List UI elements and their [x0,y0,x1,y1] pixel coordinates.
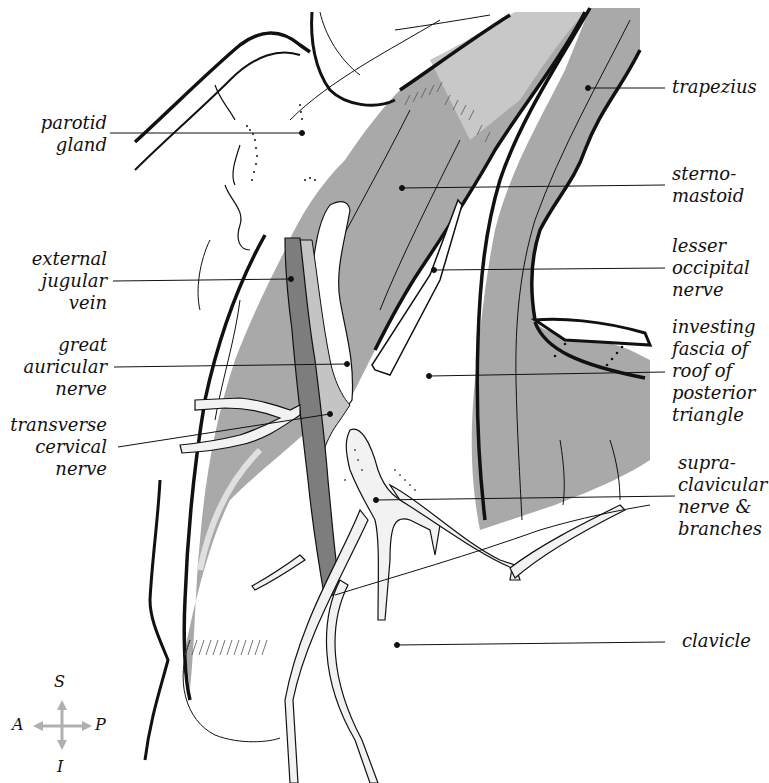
compass-superior: S [54,672,65,691]
label-clavicle: clavicle [682,630,751,652]
label-sternomastoid: sterno- mastoid [672,163,744,207]
anatomy-illustration [0,0,769,783]
orientation-compass [33,700,92,750]
label-great-auricular-nerve: great auricular nerve [24,334,107,400]
label-transverse-cervical-nerve: transverse cervical nerve [10,414,107,480]
neck-outline [145,480,168,760]
label-trapezius: trapezius [672,76,757,98]
label-external-jugular-vein: external jugular vein [32,248,107,314]
label-supraclavicular-nerve: supra- clavicular nerve & branches [678,452,767,540]
label-lesser-occipital-nerve: lesser occipital nerve [672,235,750,301]
parotid-gland-outline [215,85,250,250]
label-investing-fascia: investing fascia of roof of posterior tr… [672,316,756,426]
compass-inferior: I [57,757,63,776]
compass-anterior: A [12,715,24,734]
compass-posterior: P [95,715,106,734]
label-parotid-gland: parotid gland [41,112,107,156]
